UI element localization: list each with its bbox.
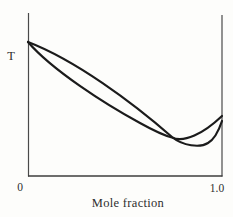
x-tick-one: 1.0: [210, 182, 225, 194]
chart-canvas: T 0 1.0 Mole fraction: [0, 0, 233, 217]
y-axis-label: T: [7, 49, 15, 63]
x-tick-zero: 0: [17, 181, 23, 193]
upper-left-curve: [28, 42, 222, 146]
x-axis-label: Mole fraction: [92, 196, 165, 210]
phase-diagram-figure: T 0 1.0 Mole fraction: [0, 0, 233, 217]
